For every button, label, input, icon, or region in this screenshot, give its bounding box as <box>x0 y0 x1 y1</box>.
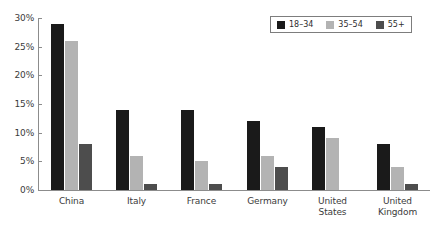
y-axis-tick <box>38 104 42 105</box>
bar-group <box>181 18 222 190</box>
x-axis-category-label: Germany <box>235 196 300 207</box>
legend-label: 55+ <box>388 21 405 29</box>
y-axis-tick <box>38 190 42 191</box>
y-axis-tick <box>38 18 42 19</box>
bar <box>79 144 92 190</box>
plot-area <box>39 18 430 190</box>
y-axis-tick-label: 15% <box>2 100 34 109</box>
x-axis-category-label: UnitedKingdom <box>365 196 430 218</box>
legend-item[interactable]: 35–54 <box>326 21 362 29</box>
legend-swatch-icon <box>326 21 334 29</box>
bar <box>51 24 64 190</box>
y-axis-tick-label: 30% <box>2 14 34 23</box>
legend-label: 18–34 <box>289 21 313 29</box>
bar <box>209 184 222 190</box>
bar-group <box>247 18 288 190</box>
bar <box>247 121 260 190</box>
bar <box>195 161 208 190</box>
bar <box>405 184 418 190</box>
legend-swatch-icon <box>277 21 285 29</box>
bar <box>312 127 325 190</box>
x-axis-category-label: Italy <box>104 196 169 207</box>
y-axis-tick-label: 25% <box>2 43 34 52</box>
y-axis: 0%5%10%15%20%25%30% <box>0 0 34 229</box>
y-axis-tick <box>38 161 42 162</box>
x-axis-category-label: China <box>39 196 104 207</box>
y-axis-tick-label: 0% <box>2 186 34 195</box>
bar <box>326 138 339 190</box>
x-axis-line <box>38 190 430 191</box>
legend-swatch-icon <box>376 21 384 29</box>
y-axis-tick-label: 20% <box>2 71 34 80</box>
bar <box>275 167 288 190</box>
x-axis-category-label-line: States <box>300 207 365 218</box>
x-axis-category-label-line: Italy <box>104 196 169 207</box>
bar-chart: 0%5%10%15%20%25%30% ChinaItalyFranceGerm… <box>0 0 433 229</box>
bar <box>65 41 78 190</box>
bar-group <box>377 18 418 190</box>
legend-item[interactable]: 55+ <box>376 21 405 29</box>
y-axis-tick <box>38 75 42 76</box>
bar-group <box>116 18 157 190</box>
bar <box>261 156 274 190</box>
y-axis-tick-label: 5% <box>2 157 34 166</box>
bar <box>377 144 390 190</box>
x-axis-category-label-line: United <box>300 196 365 207</box>
y-axis-tick <box>38 133 42 134</box>
x-axis-category-label-line: China <box>39 196 104 207</box>
legend-item[interactable]: 18–34 <box>277 21 313 29</box>
bar <box>144 184 157 190</box>
x-axis-category-label-line: France <box>169 196 234 207</box>
y-axis-tick-label: 10% <box>2 129 34 138</box>
x-axis-category-label-line: Kingdom <box>365 207 430 218</box>
bar-group <box>312 18 353 190</box>
legend-label: 35–54 <box>338 21 362 29</box>
x-axis-category-label: UnitedStates <box>300 196 365 218</box>
x-axis-category-label: France <box>169 196 234 207</box>
x-axis-category-label-line: Germany <box>235 196 300 207</box>
bar <box>116 110 129 190</box>
y-axis-tick <box>38 47 42 48</box>
chart-legend: 18–3435–5455+ <box>270 16 412 33</box>
bar <box>130 156 143 190</box>
x-axis-category-label-line: United <box>365 196 430 207</box>
bar-group <box>51 18 92 190</box>
bar <box>391 167 404 190</box>
bar <box>181 110 194 190</box>
